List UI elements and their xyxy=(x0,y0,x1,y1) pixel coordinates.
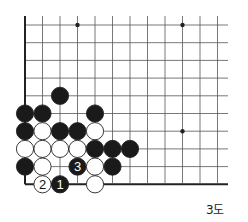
white-stone xyxy=(69,140,86,157)
black-stone xyxy=(51,123,68,140)
white-stone xyxy=(16,140,33,157)
black-stone-move-3: 3 xyxy=(69,158,86,175)
star-point-icon xyxy=(180,129,184,133)
move-number-label: 1 xyxy=(56,177,63,192)
black-stone xyxy=(16,158,33,175)
black-stone xyxy=(34,105,51,122)
black-stone xyxy=(16,105,33,122)
white-stone xyxy=(86,158,103,175)
black-stone xyxy=(104,158,121,175)
black-stone xyxy=(16,123,33,140)
move-number-label: 3 xyxy=(74,159,81,174)
diagram-caption: 3도 xyxy=(206,200,224,217)
white-stone xyxy=(34,140,51,157)
white-stone xyxy=(86,176,103,193)
black-stone xyxy=(104,140,121,157)
white-stone-move-2: 2 xyxy=(34,176,51,193)
go-board-diagram: 321 xyxy=(0,0,248,222)
white-stone xyxy=(34,123,51,140)
black-stone xyxy=(51,87,68,104)
black-stone xyxy=(86,105,103,122)
white-stone xyxy=(34,158,51,175)
star-point-icon xyxy=(180,23,184,27)
black-stone xyxy=(86,140,103,157)
black-stone xyxy=(121,140,138,157)
black-stone-move-1: 1 xyxy=(51,176,68,193)
white-stone xyxy=(86,123,103,140)
black-stone xyxy=(69,123,86,140)
move-number-label: 2 xyxy=(39,177,46,192)
white-stone xyxy=(51,140,68,157)
star-point-icon xyxy=(75,23,79,27)
